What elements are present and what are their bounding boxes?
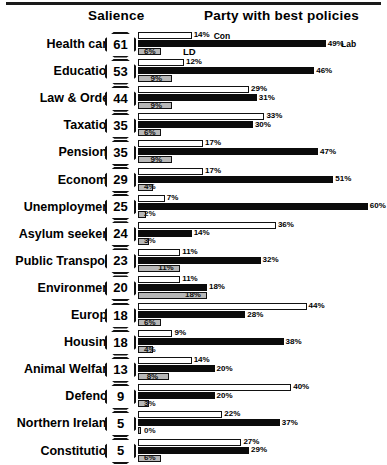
salience-value: 13: [105, 357, 136, 383]
category-label: Northern Ireland: [17, 416, 114, 430]
bar-value-con: 44%: [309, 302, 325, 310]
bar-con: [138, 411, 222, 418]
bar-value-con: 14%: [194, 356, 210, 364]
bar-lab: [138, 148, 318, 155]
bar-value-ld: 4%: [144, 346, 156, 354]
salience-value: 5: [105, 438, 136, 464]
bar-value-ld: 2%: [144, 210, 156, 218]
category-label: Constitution: [40, 444, 114, 458]
bar-group: 40%20%3%: [138, 384, 387, 409]
bar-group: 22%37%0%: [138, 411, 387, 436]
bar-value-ld: 9%: [150, 75, 162, 83]
bar-value-con: 11%: [182, 248, 198, 256]
bar-con: [138, 439, 241, 446]
bar-value-ld: 6%: [144, 48, 156, 56]
bar-con: [138, 59, 184, 66]
bar-value-lab: 30%: [255, 121, 271, 129]
bar-value-lab: 49%: [328, 40, 344, 48]
bar-value-con: 14%: [194, 31, 210, 39]
bar-group: 36%14%3%: [138, 222, 387, 247]
chart-row: Pensions3517%47%9%: [0, 138, 387, 166]
chart-row: Taxation3533%30%6%: [0, 111, 387, 139]
bar-value-ld: 9%: [150, 156, 162, 164]
bar-value-ld: 3%: [144, 237, 156, 245]
chart-row: Health care6114%49%6%ConLD: [0, 30, 387, 58]
bar-lab: [138, 67, 314, 74]
bar-value-ld: 18%: [185, 291, 201, 299]
party-column-header: Party with best policies: [204, 8, 359, 23]
bar-group: 14%20%8%: [138, 357, 387, 382]
bar-value-con: 29%: [251, 85, 267, 93]
salience-value: 53: [105, 59, 136, 85]
bar-lab: [138, 203, 368, 210]
bar-con: [138, 330, 172, 337]
chart-row: Environment2011%18%18%: [0, 274, 387, 302]
chart-row: Housing189%38%4%: [0, 328, 387, 356]
bar-con: [138, 32, 192, 39]
bar-value-lab: 32%: [263, 256, 279, 264]
chart-row: Unemployment257%60%2%: [0, 193, 387, 221]
salience-value: 35: [105, 113, 136, 139]
salience-column-header: Salience: [88, 8, 144, 23]
bar-value-ld: 3%: [144, 400, 156, 408]
salience-value: 9: [105, 384, 136, 410]
chart-row: Northern Ireland522%37%0%: [0, 409, 387, 437]
bar-lab: [138, 338, 284, 345]
salience-value: 18: [105, 330, 136, 356]
chart-row: Public Transport2311%32%11%: [0, 247, 387, 275]
bar-con: [138, 276, 180, 283]
chart-row: Education5312%46%9%: [0, 57, 387, 85]
bar-value-ld: 6%: [144, 319, 156, 327]
category-label: Animal Welfare: [24, 362, 114, 376]
bar-group: 9%38%4%: [138, 330, 387, 355]
bar-group: 12%46%9%: [138, 59, 387, 84]
bar-con: [138, 303, 307, 310]
chart-row: Europe1844%28%6%: [0, 301, 387, 329]
bar-value-lab: 46%: [316, 67, 332, 75]
bar-value-ld: 0%: [144, 427, 156, 435]
bar-group: 27%29%6%: [138, 439, 387, 464]
salience-value: 25: [105, 194, 136, 220]
bar-group: 17%51%4%: [138, 168, 387, 193]
bar-value-con: 17%: [205, 139, 221, 147]
bar-group: 17%47%9%: [138, 140, 387, 165]
bar-group: 11%32%11%: [138, 249, 387, 274]
salience-value: 5: [105, 411, 136, 437]
category-label: Law & Order: [40, 91, 114, 105]
salience-value: 20: [105, 275, 136, 301]
chart-row: Economy2917%51%4%: [0, 166, 387, 194]
category-label: Public Transport: [15, 254, 114, 268]
salience-value: 44: [105, 86, 136, 112]
bar-value-lab: 20%: [217, 392, 233, 400]
bar-value-con: 9%: [174, 329, 186, 337]
bar-value-ld: 9%: [150, 102, 162, 110]
category-label: Health care: [47, 37, 114, 51]
bar-con: [138, 86, 249, 93]
category-label: Environment: [38, 281, 114, 295]
salience-value: 23: [105, 248, 136, 274]
chart-row: Defence940%20%3%: [0, 382, 387, 410]
bar-lab: [138, 257, 261, 264]
bar-value-lab: 51%: [335, 175, 351, 183]
bar-value-lab: 18%: [209, 283, 225, 291]
bar-value-lab: 38%: [286, 338, 302, 346]
bar-value-lab: 28%: [247, 311, 263, 319]
salience-value: 35: [105, 140, 136, 166]
bar-lab: [138, 311, 245, 318]
bar-value-con: 7%: [167, 194, 179, 202]
salience-value: 24: [105, 221, 136, 247]
category-label: Unemployment: [24, 200, 114, 214]
salience-value: 18: [105, 303, 136, 329]
bar-value-lab: 60%: [370, 202, 386, 210]
legend-label-con: Con: [214, 31, 231, 41]
bar-ld: [138, 427, 141, 434]
bar-value-con: 12%: [186, 58, 202, 66]
bar-value-ld: 11%: [158, 264, 174, 272]
salience-value: 29: [105, 167, 136, 193]
bar-value-con: 36%: [278, 221, 294, 229]
chart-header: Salience Party with best policies: [0, 8, 387, 28]
bar-value-lab: 20%: [217, 365, 233, 373]
bar-group: 44%28%6%: [138, 303, 387, 328]
bar-group: 33%30%6%: [138, 113, 387, 138]
category-label: Asylum seekers: [19, 227, 114, 241]
